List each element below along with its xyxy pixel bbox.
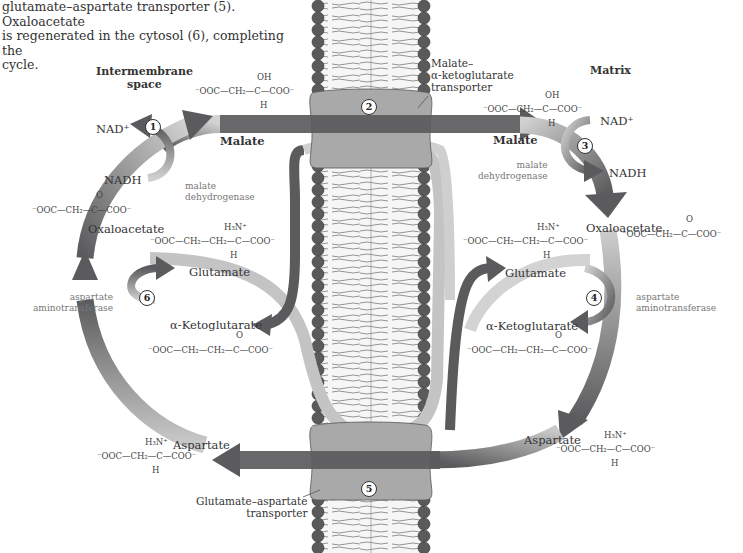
formula-chain: ⁻OOC—CH₂—C—COO⁻ <box>556 444 655 454</box>
right-md-line2: dehydrogenase <box>478 171 548 182</box>
step-2-marker: 2 <box>361 99 377 115</box>
formula-bottom: H <box>483 118 582 128</box>
formula-top: H₃N⁺ <box>150 222 275 232</box>
intermembrane-label-line1: Intermembrane <box>96 65 193 78</box>
formula-top: O <box>32 190 131 200</box>
left-glutamate-label: Glutamate <box>189 265 250 279</box>
right-at-line2: aminotransferase <box>636 303 716 314</box>
right-nad-label: NAD⁺ <box>600 114 634 128</box>
formula-bottom: H <box>195 100 294 110</box>
formula-chain: ⁻OOC—CH₂—CH₂—C—COO⁻ <box>150 236 275 246</box>
formula-top: O <box>622 214 721 224</box>
step-4-marker: 4 <box>586 290 602 306</box>
glutamate-aspartate-transporter-label: Glutamate–aspartate transporter <box>196 495 307 519</box>
left-oxaloacetate-arrowhead <box>72 250 98 280</box>
left-oxaloacetate-formula: O ⁻OOC—CH₂—C—COO⁻ <box>32 190 131 215</box>
formula-chain: ⁻OOC—CH₂—C—COO⁻ <box>483 104 582 114</box>
formula-bottom: H <box>463 250 588 260</box>
formula-bottom: H <box>556 458 655 468</box>
formula-chain: ⁻OOC—CH₂—C—COO⁻ <box>32 205 131 215</box>
left-aspartate-aminotransferase-label: aspartate aminotransferase <box>33 292 113 314</box>
matrix-label: Matrix <box>590 64 631 77</box>
intermembrane-label-line2: space <box>96 78 193 91</box>
top-transporter-line2: α-ketoglutarate <box>431 69 514 81</box>
bottom-transporter-line2: transporter <box>196 507 307 519</box>
formula-top: H₃N⁺ <box>556 430 655 440</box>
right-nadh-label: NADH <box>609 166 647 180</box>
formula-chain: ⁻OOC—CH₂—CH₂—C—COO⁻ <box>148 345 273 355</box>
right-oxaloacetate-formula: O ⁻OOC—CH₂—C—COO⁻ <box>622 214 721 239</box>
top-transporter-line1: Malate– <box>431 57 514 69</box>
formula-bottom: H <box>97 465 196 475</box>
right-at-line1: aspartate <box>636 292 716 303</box>
right-md-line1: malate <box>478 160 548 171</box>
formula-top: O <box>467 330 592 340</box>
formula-bottom: H <box>150 250 275 260</box>
left-md-line2: dehydrogenase <box>185 192 255 203</box>
left-md-line1: malate <box>185 181 255 192</box>
left-at-line2: aminotransferase <box>33 303 113 314</box>
left-aspartate-formula: H₃N⁺ ⁻OOC—CH₂—C—COO⁻ H <box>97 437 196 475</box>
right-glutamate-label: Glutamate <box>505 266 566 280</box>
right-akg-formula: O ⁻OOC—CH₂—CH₂—C—COO⁻ <box>467 330 592 355</box>
formula-top: O <box>148 330 273 340</box>
formula-chain: ⁻OOC—CH₂—CH₂—C—COO⁻ <box>463 236 588 246</box>
right-glutamate-formula: H₃N⁺ ⁻OOC—CH₂—CH₂—C—COO⁻ H <box>463 222 588 260</box>
left-malate-dehydrogenase-label: malate dehydrogenase <box>185 181 255 203</box>
left-at-line1: aspartate <box>33 292 113 303</box>
left-akg-formula: O ⁻OOC—CH₂—CH₂—C—COO⁻ <box>148 330 273 355</box>
step-6-marker: 6 <box>139 290 155 306</box>
right-aspartate-aminotransferase-label: aspartate aminotransferase <box>636 292 716 314</box>
formula-chain: ⁻OOC—CH₂—CH₂—C—COO⁻ <box>467 345 592 355</box>
step-5-marker: 5 <box>361 481 377 497</box>
step-1-marker: 1 <box>145 119 161 135</box>
malate-akg-transporter-label: Malate– α-ketoglutarate transporter <box>431 57 514 93</box>
step-3-marker: 3 <box>577 138 593 154</box>
formula-top: H₃N⁺ <box>463 222 588 232</box>
left-malate-label: Malate <box>220 134 265 148</box>
formula-top: OH <box>483 90 582 100</box>
formula-chain: ⁻OOC—CH₂—C—COO⁻ <box>622 229 721 239</box>
right-malate-label: Malate <box>493 133 538 147</box>
formula-top: H₃N⁺ <box>97 437 196 447</box>
left-glutamate-formula: H₃N⁺ ⁻OOC—CH₂—CH₂—C—COO⁻ H <box>150 222 275 260</box>
right-aspartate-formula: H₃N⁺ ⁻OOC—CH₂—C—COO⁻ H <box>556 430 655 468</box>
right-oxaloacetate-arrowhead <box>585 192 627 218</box>
right-malate-formula: OH ⁻OOC—CH₂—C—COO⁻ H <box>483 90 582 128</box>
bottom-transporter-line1: Glutamate–aspartate <box>196 495 307 507</box>
intermembrane-space-label: Intermembrane space <box>96 65 193 91</box>
left-malate-formula: OH ⁻OOC—CH₂—C—COO⁻ H <box>195 72 294 110</box>
formula-top: OH <box>195 72 294 82</box>
formula-chain: ⁻OOC—CH₂—C—COO⁻ <box>195 86 294 96</box>
left-nad-label: NAD⁺ <box>96 122 130 136</box>
left-nadh-label: NADH <box>104 173 142 187</box>
formula-chain: ⁻OOC—CH₂—C—COO⁻ <box>97 451 196 461</box>
right-malate-dehydrogenase-label: malate dehydrogenase <box>478 160 548 182</box>
